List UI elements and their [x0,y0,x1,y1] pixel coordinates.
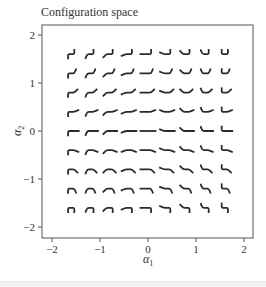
swimmer-glyph [201,165,213,174]
swimmer-glyph [180,89,194,93]
y-tick-label: −2 [23,221,35,233]
swimmer-glyph [68,189,76,194]
swimmer-glyph [201,184,211,194]
swimmer-glyph [201,203,209,213]
swimmer-glyph [85,110,98,117]
swimmer-glyph [121,110,137,114]
swimmer-glyph [103,208,113,213]
y-axis-label: α2 [10,126,26,136]
swimmer-glyph [222,145,233,152]
x-tick-label: −1 [94,243,106,255]
swimmer-glyph [68,150,79,155]
swimmer-glyph [180,127,195,131]
swimmer-glyph [140,49,152,54]
swimmer-glyph [121,150,137,152]
swimmer-glyph [85,150,98,155]
swimmer-glyph [159,89,174,93]
swimmer-glyph [159,148,175,152]
swimmer-glyph [222,126,234,131]
swimmer-glyph [121,169,136,173]
bottom-strip [0,281,266,287]
swimmer-glyph [103,131,118,135]
swimmer-glyph [103,110,118,116]
swimmer-glyph [201,88,213,93]
swimmer-glyph [222,183,230,193]
swimmer-glyph [180,204,190,213]
swimmer-glyph [222,164,232,173]
swimmer-glyph [180,108,195,112]
glyph-grid [68,49,233,213]
axis-ticks: −2−1012210−1−2 [23,29,246,255]
swimmer-glyph [85,69,95,79]
y-tick-label: 0 [30,125,36,137]
swimmer-glyph [140,150,156,152]
swimmer-glyph [103,189,115,194]
swimmer-glyph [121,208,132,213]
swimmer-glyph [222,107,233,112]
swimmer-glyph [140,208,152,213]
swimmer-glyph [121,189,134,194]
swimmer-glyph [140,169,155,173]
swimmer-glyph [103,150,118,154]
swimmer-glyph [85,89,97,98]
swimmer-glyph [140,69,153,74]
swimmer-glyph [159,110,175,112]
swimmer-glyph [68,89,78,98]
swimmer-glyph [159,69,172,74]
swimmer-glyph [68,208,74,213]
swimmer-glyph [201,126,214,131]
swimmer-glyph [140,89,155,93]
swimmer-glyph [121,131,137,133]
y-tick-label: 1 [30,77,36,89]
swimmer-glyph [85,131,98,136]
swimmer-glyph [68,69,76,79]
swimmer-glyph [159,129,175,131]
swimmer-glyph [121,49,132,56]
swimmer-glyph [85,208,93,213]
swimmer-glyph [68,131,80,136]
swimmer-glyph [68,49,74,59]
swimmer-glyph [140,189,153,194]
y-tick-label: 2 [30,29,36,41]
swimmer-glyph [103,49,113,58]
swimmer-glyph [201,49,209,54]
swimmer-glyph [201,107,214,112]
swimmer-glyph [159,167,174,173]
swimmer-glyph [222,68,230,73]
x-tick-label: 1 [193,243,199,255]
swimmer-glyph [68,110,79,117]
swimmer-glyph [180,69,192,74]
y-tick-label: −1 [23,173,35,185]
swimmer-glyph [222,49,228,54]
swimmer-glyph [121,69,134,76]
swimmer-glyph [180,49,190,54]
x-tick-label: 2 [241,243,247,255]
swimmer-glyph [201,69,211,74]
swimmer-glyph [159,187,172,194]
x-tick-label: −2 [46,243,58,255]
swimmer-glyph [159,49,170,54]
swimmer-glyph [180,185,192,194]
swimmer-glyph [180,166,194,173]
swimmer-glyph [201,145,214,152]
swimmer-glyph [85,169,97,174]
swimmer-glyph [222,203,228,213]
swimmer-glyph [85,49,93,59]
x-axis-label: α1 [143,252,153,268]
swimmer-glyph [68,169,78,174]
swimmer-glyph [222,87,232,92]
swimmer-glyph [159,206,170,213]
swimmer-glyph [103,89,117,96]
swimmer-glyph [121,89,136,95]
swimmer-glyph [140,110,156,112]
swimmer-glyph [180,146,195,152]
swimmer-glyph [85,189,95,194]
swimmer-glyph [103,69,115,78]
swimmer-glyph [103,169,117,173]
